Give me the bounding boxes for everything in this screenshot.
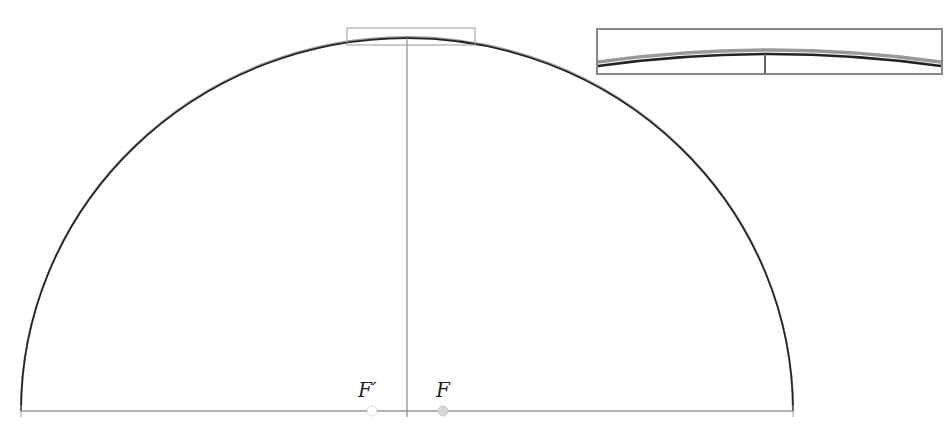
focus-left-marker <box>367 406 377 416</box>
focus-right-marker <box>438 406 448 416</box>
inset-panel <box>597 29 942 74</box>
ellipse-diagram <box>0 0 947 433</box>
focus-right-label: F <box>436 378 450 402</box>
focus-left-label: F′ <box>358 378 376 402</box>
